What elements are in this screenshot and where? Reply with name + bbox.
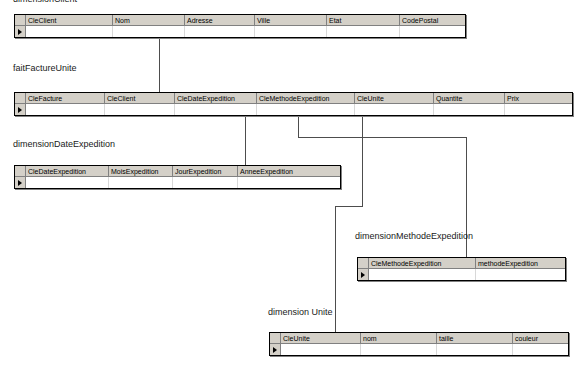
table-dimensionclient[interactable]: CleClient Nom Adresse Ville Etat CodePos… [14,14,466,38]
table-dimensionunite[interactable]: CleUnite nom taille couleur [269,332,569,356]
column-header-couleur[interactable]: couleur [513,333,568,343]
record-selector-arrow-icon[interactable] [15,104,26,115]
cell-quantite[interactable] [434,104,505,115]
cell-cleunite[interactable] [281,344,361,355]
record-selector-header [270,333,281,343]
record-selector-arrow-icon[interactable] [270,344,281,355]
cell-couleur[interactable] [513,344,568,355]
column-header-nom[interactable]: Nom [113,15,185,25]
record-selector-arrow-icon[interactable] [15,26,26,37]
column-header-cleclient[interactable]: CleClient [26,15,113,25]
table-caption-dimensionunite: dimension Unite [268,307,333,318]
cell-taille[interactable] [437,344,513,355]
table-dimensiondateexpedition[interactable]: CleDateExpedition MoisExpedition JourExp… [14,165,341,189]
table-caption-dimensiondateexpedition: dimensionDateExpedition [13,139,115,150]
cell-nom[interactable] [361,344,437,355]
table-empty-row[interactable] [15,177,340,188]
link-cleunite [335,113,362,335]
cell-anneeexpedition[interactable] [238,177,320,188]
table-dimensionmethodeexpedition[interactable]: CleMethodeExpedition methodeExpedition [357,257,566,281]
column-header-cledateexpedition[interactable]: CleDateExpedition [26,166,109,176]
table-header-row: CleUnite nom taille couleur [270,333,568,344]
cell-nom[interactable] [113,26,185,37]
cell-clemethodeexpedition[interactable] [369,269,476,280]
cell-clefacture[interactable] [26,104,105,115]
column-header-adresse[interactable]: Adresse [185,15,255,25]
cell-moisexpedition[interactable] [109,177,173,188]
column-header-prix[interactable]: Prix [505,93,573,103]
table-empty-row[interactable] [358,269,565,280]
table-caption-dimensionclient: dimensionClient [13,0,77,5]
column-header-ville[interactable]: Ville [255,15,327,25]
column-header-cleunite[interactable]: CleUnite [355,93,434,103]
cell-adresse[interactable] [185,26,255,37]
table-header-row: CleDateExpedition MoisExpedition JourExp… [15,166,340,177]
column-header-etat[interactable]: Etat [327,15,400,25]
column-header-nom[interactable]: nom [361,333,437,343]
table-empty-row[interactable] [15,104,572,115]
cell-clemethodeexpedition[interactable] [257,104,355,115]
column-header-anneeexpedition[interactable]: AnneeExpedition [238,166,320,176]
table-header-row: CleClient Nom Adresse Ville Etat CodePos… [15,15,465,26]
column-header-jourexpedition[interactable]: JourExpedition [173,166,238,176]
column-header-codepostal[interactable]: CodePostal [400,15,466,25]
column-header-clemethodeexpedition[interactable]: CleMethodeExpedition [257,93,355,103]
table-header-row: CleMethodeExpedition methodeExpedition [358,258,565,269]
er-diagram-canvas: dimensionClient CleClient Nom Adresse Vi… [0,0,588,368]
table-caption-dimensionmethodeexpedition: dimensionMethodeExpedition [355,231,473,242]
column-header-methodeexpedition[interactable]: methodeExpedition [476,258,566,268]
cell-codepostal[interactable] [400,26,466,37]
table-header-row: CleFacture CleClient CleDateExpedition C… [15,93,572,104]
record-selector-header [15,93,26,103]
cell-prix[interactable] [505,104,573,115]
table-faitfactureunite[interactable]: CleFacture CleClient CleDateExpedition C… [14,92,573,116]
column-header-cleunite[interactable]: CleUnite [281,333,361,343]
cell-ville[interactable] [255,26,327,37]
cell-cleclient[interactable] [105,104,175,115]
record-selector-arrow-icon[interactable] [358,269,369,280]
table-caption-faitfactureunite: faitFactureUnite [13,63,77,74]
table-empty-row[interactable] [15,26,465,37]
table-empty-row[interactable] [270,344,568,355]
record-selector-header [15,166,26,176]
column-header-cleclient[interactable]: CleClient [105,93,175,103]
column-header-clefacture[interactable]: CleFacture [26,93,105,103]
column-header-clemethodeexpedition[interactable]: CleMethodeExpedition [369,258,476,268]
cell-jourexpedition[interactable] [173,177,238,188]
record-selector-header [15,15,26,25]
column-header-quantite[interactable]: Quantite [434,93,505,103]
cell-cleunite[interactable] [355,104,434,115]
cell-cleclient[interactable] [26,26,113,37]
cell-etat[interactable] [327,26,400,37]
cell-cledateexpedition[interactable] [175,104,257,115]
record-selector-header [358,258,369,268]
record-selector-arrow-icon[interactable] [15,177,26,188]
column-header-taille[interactable]: taille [437,333,513,343]
column-header-moisexpedition[interactable]: MoisExpedition [109,166,173,176]
column-header-cledateexpedition[interactable]: CleDateExpedition [175,93,257,103]
cell-methodeexpedition[interactable] [476,269,566,280]
cell-cledateexpedition[interactable] [26,177,109,188]
